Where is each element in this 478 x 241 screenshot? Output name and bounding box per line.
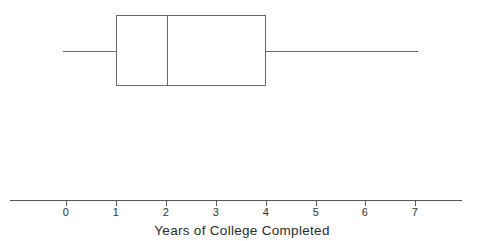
box-iqr [117,16,266,86]
box-plot-figure: 0 1 2 3 4 5 6 7 Years of College Complet… [0,0,478,241]
x-axis-title: Years of College Completed [154,223,329,238]
tick-label-4: 4 [263,206,269,218]
x-axis-ticks [67,201,416,206]
tick-label-5: 5 [313,206,319,218]
tick-label-6: 6 [362,206,368,218]
tick-label-0: 0 [63,206,69,218]
x-axis-tick-labels: 0 1 2 3 4 5 6 7 [63,206,418,218]
tick-label-1: 1 [113,206,119,218]
tick-label-3: 3 [213,206,219,218]
box-plot-canvas: 0 1 2 3 4 5 6 7 Years of College Complet… [0,0,478,241]
tick-label-7: 7 [412,206,418,218]
tick-label-2: 2 [163,206,169,218]
